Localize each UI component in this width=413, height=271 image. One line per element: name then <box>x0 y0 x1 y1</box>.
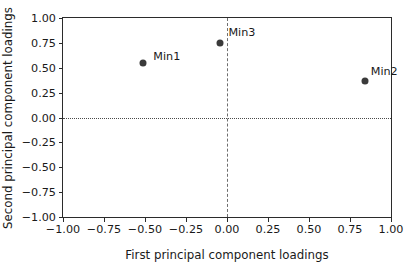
x-axis-tick-label: −0.50 <box>128 223 162 236</box>
data-point-label-min1: Min1 <box>153 50 180 63</box>
x-axis-tick <box>268 217 269 222</box>
x-axis-tick-label: 1.00 <box>379 223 404 236</box>
y-axis-tick <box>59 192 64 193</box>
scatter-plot-figure: −1.00−0.75−0.50−0.250.000.250.500.751.00… <box>0 0 413 271</box>
data-point-min1[interactable] <box>140 59 147 66</box>
x-axis-tick-label: −0.25 <box>169 223 203 236</box>
data-point-min3[interactable] <box>217 39 224 46</box>
data-point-label-min3: Min3 <box>228 26 255 39</box>
y-axis-tick-label: 0.00 <box>31 111 56 124</box>
data-point-label-min2: Min2 <box>371 65 398 78</box>
x-axis-tick-label: 0.25 <box>256 223 281 236</box>
x-axis-tick <box>309 217 310 222</box>
y-axis-tick-label: 0.75 <box>31 36 56 49</box>
x-axis-tick-label: −1.00 <box>46 223 80 236</box>
y-axis-label-text: Second principal component loadings <box>1 7 15 229</box>
y-axis-tick-label: −0.50 <box>22 161 56 174</box>
y-axis-tick-label: 0.50 <box>31 61 56 74</box>
y-axis-tick-label: −0.25 <box>22 136 56 149</box>
y-axis-tick <box>59 118 64 119</box>
y-axis-tick <box>59 18 64 19</box>
x-axis-tick-label: 0.00 <box>215 223 240 236</box>
x-axis-tick-label: −0.75 <box>87 223 121 236</box>
x-axis-label: First principal component loadings <box>62 248 392 262</box>
x-axis-tick <box>145 217 146 222</box>
x-axis-tick <box>391 217 392 222</box>
y-axis-tick <box>59 93 64 94</box>
y-axis-tick <box>59 68 64 69</box>
x-axis-tick <box>350 217 351 222</box>
x-axis-tick-label: 0.75 <box>338 223 363 236</box>
y-axis-tick <box>59 167 64 168</box>
y-axis-tick <box>59 142 64 143</box>
y-axis-tick <box>59 43 64 44</box>
data-point-min2[interactable] <box>361 77 368 84</box>
x-axis-label-text: First principal component loadings <box>125 248 328 262</box>
y-axis-label: Second principal component loadings <box>0 17 16 218</box>
y-axis-tick-label: −1.00 <box>22 211 56 224</box>
x-axis-tick <box>186 217 187 222</box>
y-axis-tick-label: 0.25 <box>31 86 56 99</box>
x-axis-tick <box>63 217 64 222</box>
y-axis-tick-label: 1.00 <box>31 12 56 25</box>
x-axis-tick <box>104 217 105 222</box>
x-axis-tick <box>227 217 228 222</box>
x-axis-tick-label: 0.50 <box>297 223 322 236</box>
plot-area: −1.00−0.75−0.50−0.250.000.250.500.751.00… <box>62 17 392 218</box>
y-axis-tick-label: −0.75 <box>22 186 56 199</box>
zero-reference-line-vertical <box>227 18 228 217</box>
